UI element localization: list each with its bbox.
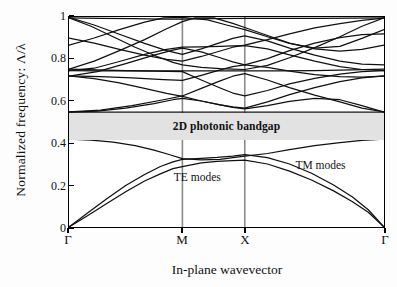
x-tick-2: X bbox=[230, 232, 260, 248]
y-tick-0.8: 0.8 bbox=[26, 53, 66, 63]
x-tick-mark-1 bbox=[181, 228, 182, 233]
y-tick-mark-4 bbox=[69, 58, 74, 59]
x-axis-label: In-plane wavevector bbox=[68, 262, 386, 278]
x-tick-0: Γ bbox=[53, 232, 83, 248]
y-tick-mark-3 bbox=[69, 100, 74, 101]
x-tick-1: M bbox=[167, 232, 197, 248]
y-tick-mark-0 bbox=[69, 227, 74, 228]
y-tick-0.4: 0.4 bbox=[26, 138, 66, 148]
te-modes-annotation: TE modes bbox=[174, 171, 221, 183]
x-tick-3: Γ bbox=[370, 232, 397, 248]
x-tick-mark-2 bbox=[244, 228, 245, 233]
y-tick-0.6: 0.6 bbox=[26, 96, 66, 106]
y-tick-mark-5 bbox=[69, 15, 74, 16]
y-tick-mark-1 bbox=[69, 185, 74, 186]
band-curve-6 bbox=[69, 71, 384, 96]
tm-modes-annotation: TM modes bbox=[295, 159, 345, 171]
x-tick-mark-3 bbox=[384, 228, 385, 233]
band-curve-12 bbox=[69, 18, 384, 19]
band-curve-5 bbox=[69, 76, 384, 108]
bandgap-label: 2D photonic bandgap bbox=[69, 120, 384, 132]
y-tick-mark-2 bbox=[69, 143, 74, 144]
y-tick-0.2: 0.2 bbox=[26, 181, 66, 191]
photonic-band-diagram-figure: Normalized frequency: Λ/λ 00.20.40.60.81… bbox=[0, 0, 397, 287]
plot-area: 2D photonic bandgap TE modes TM modes bbox=[68, 16, 385, 228]
x-tick-mark-0 bbox=[67, 228, 68, 233]
bandgap-region: 2D photonic bandgap bbox=[69, 113, 384, 141]
y-tick-1: 1 bbox=[26, 11, 66, 21]
y-axis-label: Normalized frequency: Λ/λ bbox=[13, 15, 29, 225]
